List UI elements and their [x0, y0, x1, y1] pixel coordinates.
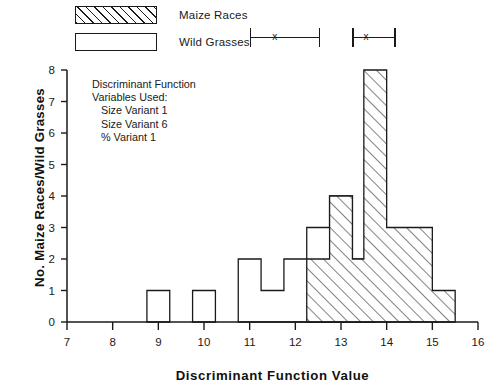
x-tick-label: 8: [101, 336, 125, 348]
series-maize-races: [307, 70, 455, 322]
annotation-line-1: Discriminant Function: [92, 78, 196, 90]
x-axis-title: Discriminant Function Value: [60, 368, 485, 383]
x-tick-label: 16: [466, 336, 490, 348]
chart-figure: Maize Races Wild Grasses x x: [0, 0, 495, 390]
x-tick-label: 10: [192, 336, 216, 348]
x-tick-label: 11: [238, 336, 262, 348]
x-tick-label: 15: [420, 336, 444, 348]
annotation-text-block: Discriminant Function Variables Used: Si…: [92, 78, 196, 144]
x-tick-label: 9: [146, 336, 170, 348]
x-tick-label: 13: [329, 336, 353, 348]
plot-area: Discriminant Function Variables Used: Si…: [0, 0, 495, 390]
annotation-line-4: Size Variant 6: [92, 118, 196, 131]
x-tick-label: 7: [55, 336, 79, 348]
y-tick-label: 0: [39, 316, 55, 328]
x-tick-label: 14: [375, 336, 399, 348]
x-tick-label: 12: [283, 336, 307, 348]
annotation-line-2: Variables Used:: [92, 91, 167, 103]
annotation-line-5: % Variant 1: [92, 131, 196, 144]
chart-canvas: [0, 0, 495, 390]
annotation-line-3: Size Variant 1: [92, 104, 196, 117]
y-axis-title: No. Maize Races/Wild Grasses: [32, 63, 47, 313]
